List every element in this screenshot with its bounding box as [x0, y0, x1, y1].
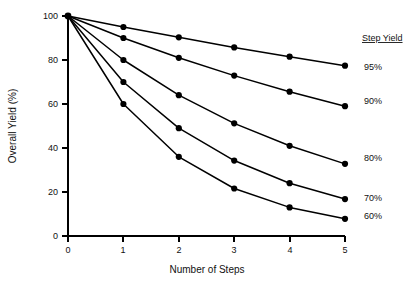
data-point: [342, 103, 348, 109]
data-point: [231, 44, 237, 50]
y-tick-label-60: 60: [48, 99, 58, 109]
data-point: [287, 54, 293, 60]
x-tick-label-0: 0: [65, 245, 70, 255]
chart-page: 0 20 40 60 80 100 0 1 2 3 4 5 Number of …: [0, 0, 414, 284]
legend-label-90: 90%: [364, 96, 382, 106]
data-point: [176, 92, 182, 98]
data-point: [342, 63, 348, 69]
data-point: [176, 34, 182, 40]
x-axis-title: Number of Steps: [169, 264, 244, 275]
x-tick-label-5: 5: [342, 245, 347, 255]
x-tick-label-4: 4: [287, 245, 292, 255]
data-point: [231, 185, 237, 191]
legend-label-60: 60%: [364, 211, 382, 221]
y-tick-label-40: 40: [48, 143, 58, 153]
data-point: [287, 204, 293, 210]
data-point: [231, 157, 237, 163]
x-tick-label-1: 1: [120, 245, 125, 255]
data-point: [342, 216, 348, 222]
data-point: [120, 101, 126, 107]
legend-label-80: 80%: [364, 153, 382, 163]
y-tick-label-80: 80: [48, 55, 58, 65]
x-tick-label-2: 2: [176, 245, 181, 255]
x-tick-label-3: 3: [231, 245, 236, 255]
y-tick-label-0: 0: [53, 231, 58, 241]
data-point: [176, 125, 182, 131]
data-point: [120, 24, 126, 30]
legend-label-95: 95%: [364, 62, 382, 72]
y-tick-label-20: 20: [48, 187, 58, 197]
data-point: [231, 120, 237, 126]
data-point: [176, 154, 182, 160]
data-point: [176, 55, 182, 61]
data-point: [231, 73, 237, 79]
data-point: [120, 79, 126, 85]
data-point-origin: [65, 13, 72, 20]
data-point: [287, 89, 293, 95]
y-axis-title: Overall Yield (%): [7, 89, 18, 163]
yield-decay-line-chart: 0 20 40 60 80 100 0 1 2 3 4 5 Number of …: [0, 0, 414, 284]
data-point: [120, 35, 126, 41]
data-point: [342, 196, 348, 202]
data-point: [287, 180, 293, 186]
legend-label-70: 70%: [364, 193, 382, 203]
data-point: [287, 143, 293, 149]
legend-title: Step Yield: [362, 33, 403, 43]
y-tick-label-100: 100: [43, 11, 58, 21]
data-point: [120, 57, 126, 63]
data-point: [342, 161, 348, 167]
